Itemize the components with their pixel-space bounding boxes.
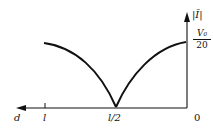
current-magnitude-diagram: |Ī| V₀ 20 d l l/2 0 [0, 0, 213, 129]
x-axis-label: d [14, 113, 20, 123]
current-axis-arrow-icon [184, 12, 190, 22]
peak-denominator: 20 [193, 40, 211, 50]
peak-numerator: V₀ [193, 29, 211, 40]
tick-label-l: l [43, 113, 46, 123]
peak-value-label: V₀ 20 [193, 29, 211, 50]
d-axis-arrow-icon [16, 105, 26, 111]
diagram-graphic [0, 0, 213, 129]
curve-left-lobe [44, 43, 116, 107]
y-axis-label: |Ī| [192, 10, 203, 20]
tick-label-half-l: l/2 [108, 113, 121, 123]
curve-right-lobe [116, 42, 186, 107]
origin-label: 0 [194, 113, 200, 123]
